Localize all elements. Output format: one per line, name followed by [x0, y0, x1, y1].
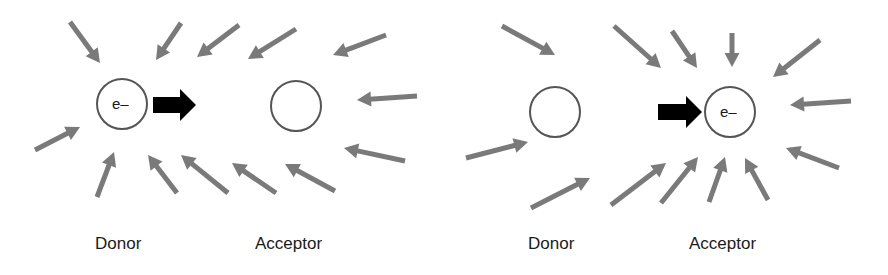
field-arrow-head: [344, 144, 359, 159]
field-arrow: [293, 168, 335, 191]
field-arrow: [204, 25, 239, 52]
field-arrow: [35, 131, 72, 150]
field-arrow: [366, 96, 417, 99]
field-arrow: [531, 182, 582, 208]
field-arrow: [341, 35, 386, 52]
field-arrow: [780, 40, 820, 71]
field-arrow: [794, 151, 839, 168]
field-arrow-head: [513, 138, 528, 153]
electron-transfer-arrow: [153, 89, 196, 121]
field-arrow: [614, 26, 654, 62]
field-arrow: [672, 31, 692, 61]
field-arrow: [466, 144, 519, 158]
field-arrow-head: [357, 92, 371, 107]
donor-label: Donor: [528, 235, 574, 252]
field-arrow-head: [790, 97, 804, 112]
donor-circle: [530, 87, 580, 137]
field-arrow: [502, 26, 547, 51]
field-arrow: [188, 161, 228, 193]
donor-label: Donor: [95, 235, 141, 252]
electron-label: e–: [112, 96, 129, 111]
field-arrow: [353, 150, 405, 161]
field-arrow: [799, 101, 851, 104]
field-arrow: [749, 166, 768, 200]
field-arrow: [611, 168, 659, 205]
electron-label: e–: [720, 104, 737, 119]
field-arrow: [256, 29, 296, 54]
field-arrow: [709, 165, 722, 202]
field-arrow: [70, 22, 95, 56]
acceptor-circle: [271, 81, 321, 131]
acceptor-label: Acceptor: [255, 235, 322, 252]
electron-transfer-arrow: [658, 96, 702, 128]
field-arrow: [661, 164, 692, 203]
field-arrow: [161, 23, 181, 53]
field-arrow: [97, 160, 111, 197]
field-arrow: [153, 162, 177, 193]
field-arrow-head: [725, 53, 740, 67]
field-arrow: [239, 168, 276, 193]
acceptor-label: Acceptor: [689, 235, 756, 252]
